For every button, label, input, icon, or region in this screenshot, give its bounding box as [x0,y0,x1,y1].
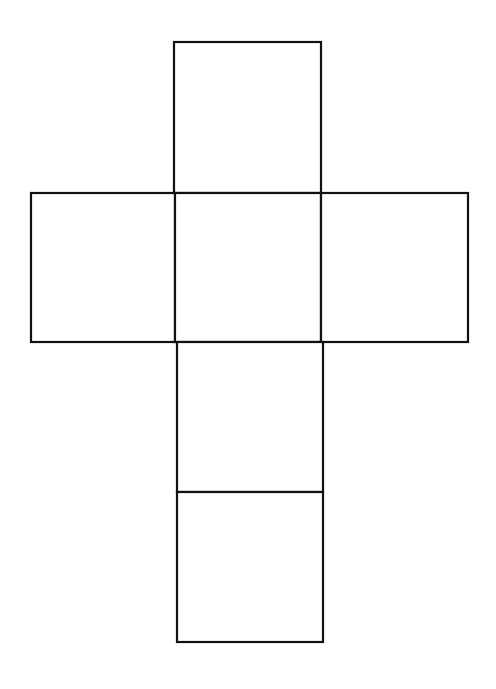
cube-net-diagram [0,0,496,689]
face-top [174,42,321,193]
face-lower [177,342,323,492]
face-right [321,193,468,342]
face-bottom [177,492,323,642]
face-left [31,193,175,342]
face-center [175,193,321,342]
